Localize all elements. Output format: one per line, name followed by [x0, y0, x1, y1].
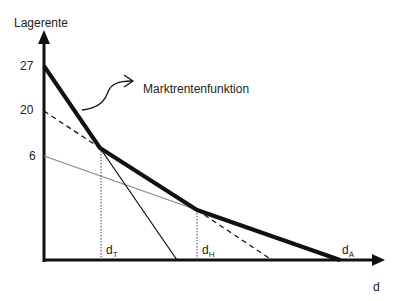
marker-dT: dT [106, 243, 118, 259]
marker-dA: dÄ [342, 243, 354, 259]
marker-dH: dH [202, 243, 214, 259]
marker-dH-sub: H [209, 250, 215, 259]
marker-dA-sub: Ä [349, 250, 354, 259]
tick-20: 20 [20, 103, 33, 117]
x-axis-arrow-icon [372, 254, 385, 266]
marker-dA-main: d [342, 243, 349, 257]
tick-27: 27 [20, 59, 33, 73]
y-axis-label: Lagerente [14, 16, 68, 30]
marker-dH-main: d [202, 243, 209, 257]
curve-dashed-upper [44, 111, 100, 148]
marker-dT-main: d [106, 243, 113, 257]
tick-6: 6 [29, 149, 36, 163]
marker-dT-sub: T [113, 250, 118, 259]
annotation-label: Marktrentenfunktion [143, 82, 249, 96]
y-axis-arrow-icon [38, 30, 50, 44]
annotation-arrow [82, 81, 132, 110]
x-axis-label: d [373, 280, 380, 294]
curve-gray [44, 156, 197, 210]
